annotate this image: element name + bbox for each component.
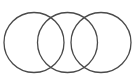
circle-middle <box>38 13 98 73</box>
venn-diagram <box>0 0 138 83</box>
circle-right <box>71 13 131 73</box>
circle-left <box>4 13 64 73</box>
